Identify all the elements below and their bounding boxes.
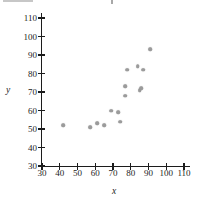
x-axis-line — [41, 166, 190, 167]
y-tick-label: 110 — [24, 14, 37, 23]
data-point — [117, 111, 121, 115]
y-tick — [38, 110, 45, 111]
x-tick-label: 70 — [109, 169, 118, 178]
x-tick-label: 60 — [91, 169, 100, 178]
y-tick — [38, 73, 45, 74]
y-tick — [38, 165, 45, 166]
y-tick — [38, 36, 45, 37]
data-point — [95, 122, 99, 126]
scatter-plot: 30405060708090100110 3040506070809010011… — [0, 0, 201, 199]
y-tick — [38, 91, 45, 92]
cropped-content-artifact — [111, 0, 113, 4]
x-tick-label: 30 — [38, 169, 47, 178]
data-point — [118, 120, 122, 124]
y-tick — [38, 147, 45, 148]
data-point — [148, 48, 152, 52]
data-point — [109, 109, 113, 113]
data-point — [136, 64, 140, 68]
data-point — [62, 124, 66, 128]
y-tick — [38, 17, 45, 18]
data-point — [125, 68, 129, 72]
x-tick-label: 80 — [126, 169, 135, 178]
data-point — [88, 125, 92, 129]
y-tick-label: 50 — [28, 125, 37, 134]
data-point — [102, 124, 106, 128]
x-tick-label: 100 — [160, 169, 174, 178]
y-tick-label: 90 — [28, 51, 37, 60]
data-point — [124, 85, 128, 89]
x-axis-title: x — [112, 186, 116, 196]
x-tick-label: 50 — [73, 169, 82, 178]
y-tick — [38, 128, 45, 129]
y-axis-title: y — [6, 85, 10, 95]
y-tick-label: 60 — [28, 106, 37, 115]
x-tick-label: 40 — [55, 169, 64, 178]
y-tick — [38, 54, 45, 55]
y-tick-label: 30 — [28, 162, 37, 171]
x-tick-label: 110 — [177, 169, 190, 178]
x-tick-label: 90 — [144, 169, 153, 178]
cropped-content-artifact — [3, 0, 33, 2]
y-tick-label: 70 — [28, 88, 37, 97]
data-point — [124, 94, 128, 98]
data-point — [140, 87, 144, 91]
y-tick-label: 40 — [28, 143, 37, 152]
y-tick-label: 80 — [28, 69, 37, 78]
data-point — [141, 68, 145, 72]
y-tick-label: 100 — [24, 32, 38, 41]
